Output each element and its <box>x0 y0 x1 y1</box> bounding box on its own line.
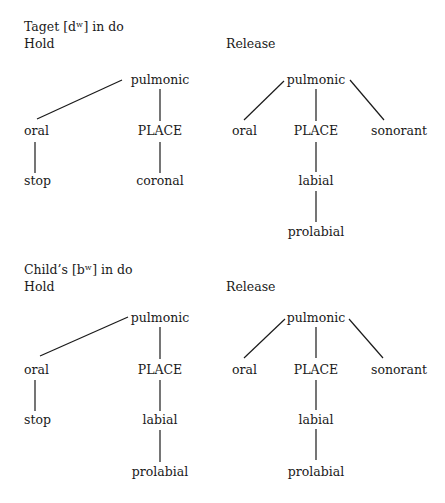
edge <box>40 317 128 356</box>
edge <box>349 319 383 358</box>
node-prolabial: prolabial <box>288 465 344 479</box>
node-oral: oral <box>232 363 257 377</box>
node-stop: stop <box>24 174 51 188</box>
node-pulmonic: pulmonic <box>287 311 345 325</box>
edge <box>244 81 284 120</box>
node-place: PLACE <box>138 124 182 138</box>
node-labial: labial <box>143 413 178 427</box>
section-title: Child’s [bʷ] in do <box>24 263 133 277</box>
node-oral: oral <box>232 124 257 138</box>
node-labial: labial <box>299 413 334 427</box>
hold-label: Hold <box>24 280 54 294</box>
node-place: PLACE <box>294 363 338 377</box>
node-pulmonic: pulmonic <box>287 73 345 87</box>
node-pulmonic: pulmonic <box>131 73 189 87</box>
node-labial: labial <box>299 174 334 188</box>
section-title: Taget [dʷ] in do <box>24 20 124 34</box>
node-stop: stop <box>24 413 51 427</box>
node-sonorant: sonorant <box>371 124 427 138</box>
node-place: PLACE <box>294 124 338 138</box>
release-label: Release <box>226 37 275 51</box>
node-coronal: coronal <box>136 174 184 188</box>
edge <box>350 80 384 120</box>
edge <box>244 319 285 358</box>
tree-edges <box>0 0 445 503</box>
node-prolabial: prolabial <box>288 225 344 239</box>
node-oral: oral <box>24 124 49 138</box>
node-oral: oral <box>24 363 49 377</box>
node-pulmonic: pulmonic <box>131 311 189 325</box>
node-prolabial: prolabial <box>132 465 188 479</box>
release-label: Release <box>226 280 275 294</box>
hold-label: Hold <box>24 37 54 51</box>
node-place: PLACE <box>138 363 182 377</box>
node-sonorant: sonorant <box>371 363 427 377</box>
edge <box>37 80 122 119</box>
